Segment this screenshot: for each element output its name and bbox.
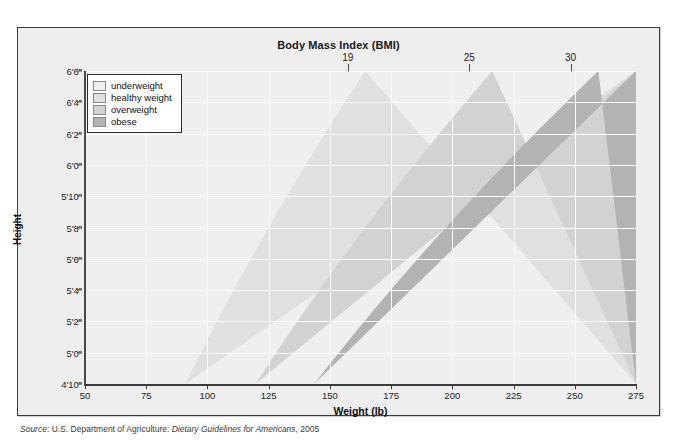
bmi-tick-mark	[469, 64, 470, 71]
y-tick-mark	[77, 133, 82, 134]
bmi-tick-label: 25	[464, 52, 475, 63]
x-tick-mark	[146, 384, 147, 389]
legend-item-underweight: underweight	[93, 80, 172, 91]
gridline-horizontal	[85, 71, 636, 72]
x-tick-mark	[514, 384, 515, 389]
x-tick-label: 225	[506, 390, 522, 401]
legend-item-healthy-weight: healthy weight	[93, 92, 172, 103]
x-tick-label: 275	[628, 390, 644, 401]
x-tick-mark	[452, 384, 453, 389]
y-tick-label: 5'8”	[42, 222, 82, 233]
x-tick-mark	[636, 384, 637, 389]
legend-swatch-icon	[93, 93, 106, 103]
y-tick-label: 6'2”	[42, 128, 82, 139]
legend-label: underweight	[111, 81, 163, 91]
gridline-horizontal	[85, 259, 636, 260]
y-tick-label: 5'2”	[42, 316, 82, 327]
y-tick-mark	[77, 384, 82, 385]
y-tick-label: 5'6”	[42, 253, 82, 264]
x-tick-mark	[330, 384, 331, 389]
y-tick-mark	[77, 290, 82, 291]
y-tick-mark	[77, 164, 82, 165]
x-tick-label: 125	[261, 390, 277, 401]
gridline-horizontal	[85, 353, 636, 354]
bmi-tick-label: 30	[565, 52, 576, 63]
y-tick-label: 4'10”	[42, 379, 82, 390]
legend-item-obese: obese	[93, 116, 172, 127]
gridline-horizontal	[85, 290, 636, 291]
source-year: , 2005	[296, 424, 320, 434]
y-tick-label: 5'10”	[42, 191, 82, 202]
legend-swatch-icon	[93, 105, 106, 115]
x-tick-mark	[207, 384, 208, 389]
legend-swatch-icon	[93, 117, 106, 127]
x-tick-label: 50	[80, 390, 91, 401]
source-agency: U.S. Department of Agriculture:	[52, 424, 172, 434]
x-tick-label: 200	[444, 390, 460, 401]
legend-item-overweight: overweight	[93, 104, 172, 115]
y-tick-label: 5'4”	[42, 285, 82, 296]
bmi-tick-mark	[348, 64, 349, 71]
y-tick-label: 5'0”	[42, 347, 82, 358]
gridline-horizontal	[85, 228, 636, 229]
y-tick-label: 6'4”	[42, 97, 82, 108]
bmi-tick-label: 19	[342, 52, 353, 63]
legend-label: overweight	[111, 105, 157, 115]
x-tick-label: 175	[383, 390, 399, 401]
gridline-horizontal	[85, 165, 636, 166]
y-axis-line	[84, 71, 86, 385]
x-tick-label: 250	[567, 390, 583, 401]
x-tick-mark	[391, 384, 392, 389]
y-tick-mark	[77, 227, 82, 228]
gridline-horizontal	[85, 134, 636, 135]
legend: underweighthealthy weightoverweightobese	[87, 74, 182, 133]
x-tick-label: 100	[199, 390, 215, 401]
y-tick-label: 6'6”	[42, 66, 82, 77]
gridline-horizontal	[85, 321, 636, 322]
x-tick-mark	[575, 384, 576, 389]
legend-swatch-icon	[93, 81, 106, 91]
y-tick-mark	[77, 71, 82, 72]
source-prefix: Source	[20, 424, 47, 434]
x-tick-mark	[85, 384, 86, 389]
y-axis: 6'6”6'4”6'2”6'0”5'10”5'8”5'6”5'4”5'2”5'0…	[34, 28, 82, 415]
y-tick-mark	[77, 321, 82, 322]
y-axis-title: Height	[12, 214, 23, 245]
legend-label: healthy weight	[111, 93, 172, 103]
gridline-horizontal	[85, 196, 636, 197]
bmi-tick-mark	[571, 64, 572, 71]
x-tick-label: 75	[141, 390, 152, 401]
y-tick-mark	[77, 352, 82, 353]
x-tick-label: 150	[322, 390, 338, 401]
source-note: Source: U.S. Department of Agriculture: …	[20, 424, 319, 434]
y-tick-mark	[77, 196, 82, 197]
source-document: Dietary Guidelines for Americans	[172, 424, 296, 434]
legend-label: obese	[111, 117, 137, 127]
x-tick-mark	[269, 384, 270, 389]
x-axis-title: Weight (lb)	[85, 405, 636, 417]
y-tick-mark	[77, 258, 82, 259]
y-tick-mark	[77, 102, 82, 103]
x-axis-line	[84, 384, 637, 386]
page-title: Body Mass Index (BMI)	[18, 39, 659, 51]
y-tick-label: 6'0”	[42, 159, 82, 170]
figure-frame: Body Mass Index (BMI) 6'6”6'4”6'2”6'0”5'…	[17, 27, 660, 416]
